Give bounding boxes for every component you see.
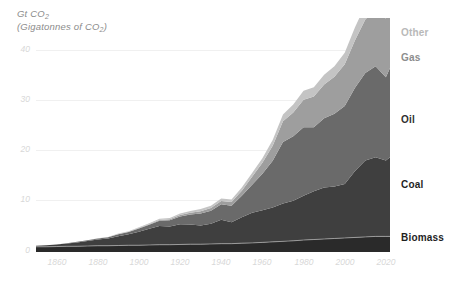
x-tick-2000: 2000 (336, 257, 355, 267)
x-tick-1920: 1920 (171, 257, 190, 267)
x-tick-1980: 1980 (295, 257, 314, 267)
y-tick-30: 30 (4, 94, 30, 104)
plot-area (36, 18, 390, 252)
x-tick-1960: 1960 (253, 257, 272, 267)
y-tick-10: 10 (4, 194, 30, 204)
series-label-gas: Gas (401, 52, 421, 63)
x-tick-1940: 1940 (212, 257, 231, 267)
series-label-coal: Coal (401, 179, 423, 190)
series-label-biomass: Biomass (401, 232, 444, 243)
x-tick-1860: 1860 (48, 257, 67, 267)
x-tick-1900: 1900 (130, 257, 149, 267)
chart-figure: Gt CO2 (Gigatonnes of CO2) 40 30 20 10 0… (0, 0, 461, 292)
x-tick-2020: 2020 (377, 257, 396, 267)
x-tick-1880: 1880 (89, 257, 108, 267)
stacked-area-svg (36, 18, 390, 252)
series-label-other: Other (401, 27, 429, 38)
y-tick-0: 0 (4, 245, 30, 255)
y-tick-20: 20 (4, 144, 30, 154)
series-label-oil: Oil (401, 114, 415, 125)
y-tick-40: 40 (4, 44, 30, 54)
